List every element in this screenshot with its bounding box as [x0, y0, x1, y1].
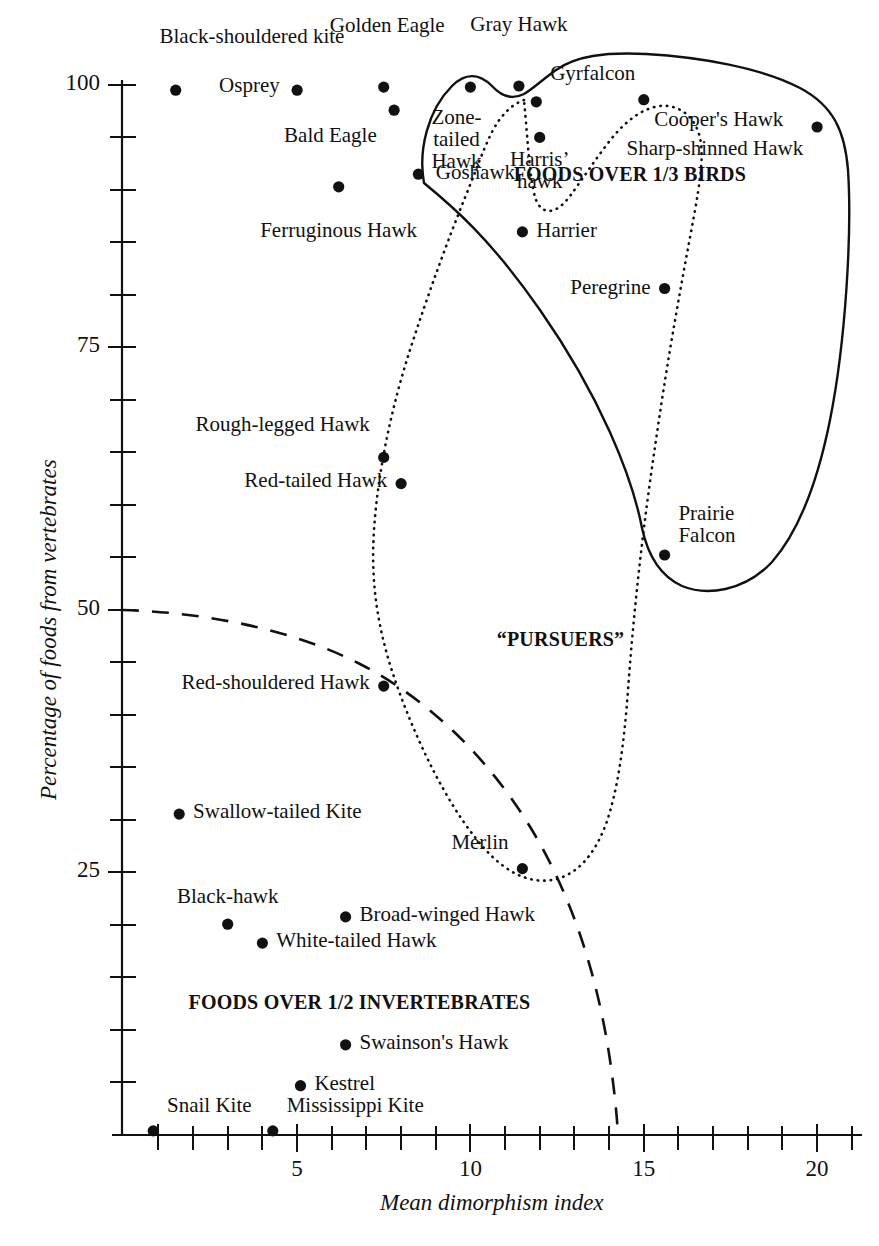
point-label: Gyrfalcon — [550, 62, 635, 84]
point-label: White-tailed Hawk — [276, 929, 436, 951]
region-annotation: FOODS OVER 1/3 BIRDS — [430, 163, 830, 186]
x-axis-title: Mean dimorphism index — [380, 1190, 604, 1216]
data-point — [222, 919, 233, 930]
scatter-plot-figure: Black-shouldered kiteOspreyGolden EagleB… — [0, 0, 879, 1246]
point-label: Swallow-tailed Kite — [193, 800, 362, 822]
point-label: Black-hawk — [28, 885, 428, 907]
x-axis-ticks — [158, 1124, 852, 1152]
point-label: Cooper's Hawk — [654, 108, 783, 130]
data-point — [513, 80, 524, 91]
x-tick-label: 5 — [257, 1156, 337, 1182]
point-label: Swainson's Hawk — [359, 1031, 508, 1053]
point-label: Peregrine — [0, 276, 651, 298]
data-point — [659, 283, 670, 294]
data-point — [267, 1125, 278, 1136]
y-tick-label: 75 — [0, 332, 100, 358]
data-point — [638, 94, 649, 105]
data-point — [812, 121, 823, 132]
point-label: Merlin — [0, 831, 509, 853]
x-tick-label: 10 — [430, 1156, 510, 1182]
data-point — [378, 681, 389, 692]
point-label: PrairieFalcon — [678, 502, 735, 547]
data-point — [378, 82, 389, 93]
point-label: Gray Hawk — [319, 13, 719, 35]
data-point — [340, 1039, 351, 1050]
data-point — [292, 85, 303, 96]
region-annotation: “PURSUERS” — [361, 628, 761, 651]
data-point — [465, 82, 476, 93]
region-annotation: FOODS OVER 1/2 INVERTEBRATES — [159, 991, 559, 1014]
data-point — [396, 478, 407, 489]
data-point — [517, 863, 528, 874]
x-tick-label: 15 — [604, 1156, 684, 1182]
y-tick-label: 25 — [0, 857, 100, 883]
data-point — [295, 1080, 306, 1091]
point-label: Ferruginous Hawk — [139, 219, 539, 241]
x-tick-label: 20 — [777, 1156, 857, 1182]
data-point — [659, 549, 670, 560]
point-label: Rough-legged Hawk — [0, 413, 370, 435]
data-point — [148, 1125, 159, 1136]
y-tick-label: 100 — [0, 70, 100, 96]
data-point — [257, 938, 268, 949]
point-label: Kestrel — [314, 1072, 375, 1094]
point-label: Snail Kite — [167, 1094, 252, 1116]
y-axis-title: Percentage of foods from vertebrates — [36, 459, 62, 800]
data-point — [340, 911, 351, 922]
data-point — [378, 452, 389, 463]
point-label: Harrier — [536, 219, 597, 241]
point-label: Mississippi Kite — [287, 1094, 424, 1116]
data-point — [174, 809, 185, 820]
